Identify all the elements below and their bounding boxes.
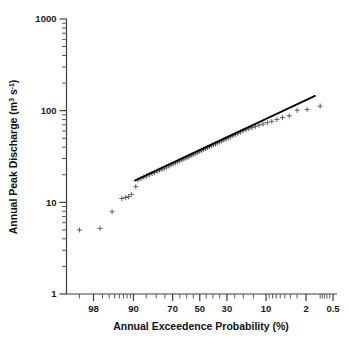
y-tick-label: 1 bbox=[51, 288, 57, 299]
data-point bbox=[119, 196, 124, 201]
x-tick-label: 70 bbox=[167, 303, 178, 314]
data-point bbox=[265, 120, 270, 125]
y-axis: 1101001000 bbox=[35, 13, 66, 299]
data-point bbox=[269, 119, 274, 124]
x-tick-label: 30 bbox=[222, 303, 233, 314]
fit-line bbox=[135, 96, 315, 181]
y-axis-tick-labels: 1101001000 bbox=[35, 13, 57, 299]
x-axis-title: Annual Exceedence Probability (%) bbox=[113, 320, 289, 332]
x-tick-label: 98 bbox=[88, 303, 99, 314]
y-axis-title-group: Annual Peak Discharge (m3 s-1) bbox=[7, 80, 19, 235]
data-point bbox=[97, 226, 102, 231]
data-point bbox=[305, 107, 310, 112]
x-axis-ticks bbox=[79, 294, 333, 301]
data-point bbox=[129, 192, 134, 197]
data-point bbox=[123, 195, 128, 200]
data-point bbox=[133, 184, 138, 189]
chart-svg: 1101001000 98907050301020.5 Annual Excee… bbox=[0, 0, 349, 338]
data-point bbox=[318, 104, 323, 109]
probability-plot-chart: 1101001000 98907050301020.5 Annual Excee… bbox=[0, 0, 349, 338]
x-tick-label: 90 bbox=[128, 303, 139, 314]
data-point bbox=[274, 117, 279, 122]
data-series-layer bbox=[77, 96, 323, 233]
x-axis-tick-labels: 98907050301020.5 bbox=[88, 303, 340, 314]
data-point bbox=[126, 194, 131, 199]
y-tick-label: 10 bbox=[46, 197, 57, 208]
scatter-markers bbox=[77, 104, 323, 233]
x-tick-label: 10 bbox=[261, 303, 272, 314]
x-tick-label: 2 bbox=[303, 303, 308, 314]
x-tick-label: 50 bbox=[194, 303, 205, 314]
data-point bbox=[77, 227, 82, 232]
data-point bbox=[280, 115, 285, 120]
x-axis: 98907050301020.5 bbox=[67, 294, 341, 314]
data-point bbox=[287, 113, 292, 118]
x-tick-label: 0.5 bbox=[326, 303, 340, 314]
y-axis-ticks bbox=[60, 19, 67, 294]
y-tick-label: 100 bbox=[41, 105, 57, 116]
data-point bbox=[294, 108, 299, 113]
y-tick-label: 1000 bbox=[35, 13, 56, 24]
data-point bbox=[109, 209, 114, 214]
y-axis-title: Annual Peak Discharge (m3 s-1) bbox=[7, 80, 19, 235]
